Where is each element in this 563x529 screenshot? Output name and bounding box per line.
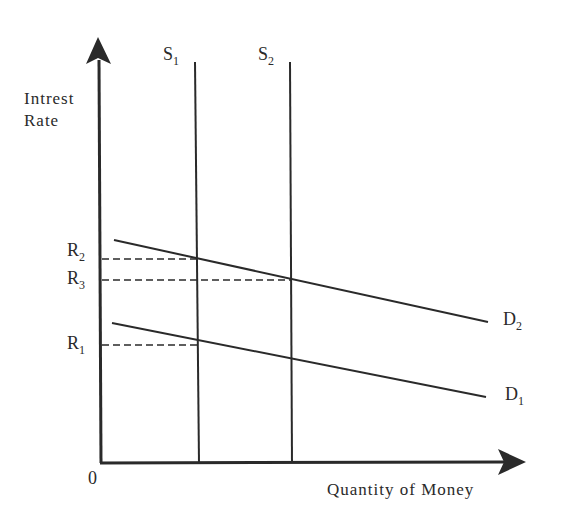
label-r3: R3 [67, 268, 85, 292]
money-market-diagram: Intrest Rate Quantity of Money 0 S1 S2 D… [0, 0, 563, 529]
x-axis-label: Quantity of Money [327, 480, 474, 499]
y-axis-label-line1: Intrest [24, 89, 74, 108]
supply-curve-s1 [195, 62, 199, 463]
y-axis-arrowhead-icon [86, 37, 111, 64]
label-d1: D1 [505, 384, 524, 408]
supply-curve-s2 [290, 62, 292, 463]
y-axis [99, 60, 101, 463]
label-s2: S2 [258, 44, 274, 68]
demand-curve-d2 [114, 240, 488, 322]
label-r2: R2 [67, 240, 85, 264]
origin-label: 0 [88, 468, 97, 488]
label-s1: S1 [163, 44, 179, 68]
demand-curve-d1 [112, 323, 486, 397]
label-r1: R1 [67, 333, 85, 357]
x-axis [100, 462, 505, 463]
label-d2: D2 [503, 309, 522, 333]
y-axis-label-line2: Rate [24, 111, 59, 130]
